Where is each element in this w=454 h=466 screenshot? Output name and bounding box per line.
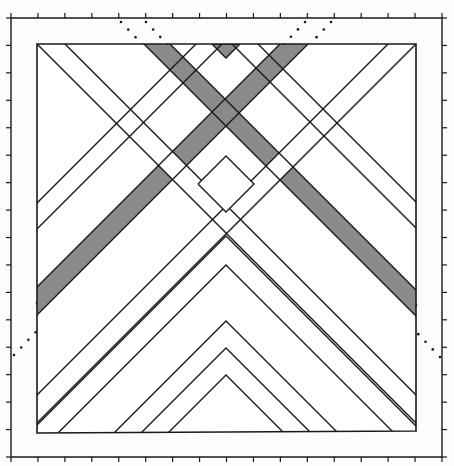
- dotted-line-rising-outer: [27, 339, 30, 342]
- dotted-line-falling-inner: [152, 28, 155, 31]
- dotted-line-falling-outer: [120, 21, 123, 24]
- dotted-line-rising-outer: [330, 21, 333, 24]
- dotted-line-rising-inner: [290, 35, 293, 38]
- dotted-line-rising-inner: [304, 21, 307, 24]
- dotted-line-falling-outer: [431, 348, 434, 351]
- dotted-line-falling-inner: [159, 36, 162, 39]
- dotted-line-rising-outer: [322, 28, 325, 31]
- dotted-line-rising-inner: [297, 28, 300, 31]
- dotted-line-rising-outer: [315, 36, 318, 39]
- diagram-canvas: [0, 0, 454, 466]
- dotted-line-rising-outer: [20, 346, 23, 349]
- dotted-line-falling-outer: [417, 333, 420, 336]
- dotted-line-falling-inner: [145, 21, 148, 24]
- dotted-line-falling-outer: [127, 28, 130, 31]
- dotted-line-falling-outer: [424, 340, 427, 343]
- dotted-line-falling-outer: [134, 36, 137, 39]
- dotted-line-rising-outer: [13, 354, 16, 357]
- inner-square: [0, 0, 454, 461]
- diagram-figure: [0, 0, 454, 466]
- dotted-line-falling-outer: [439, 356, 442, 359]
